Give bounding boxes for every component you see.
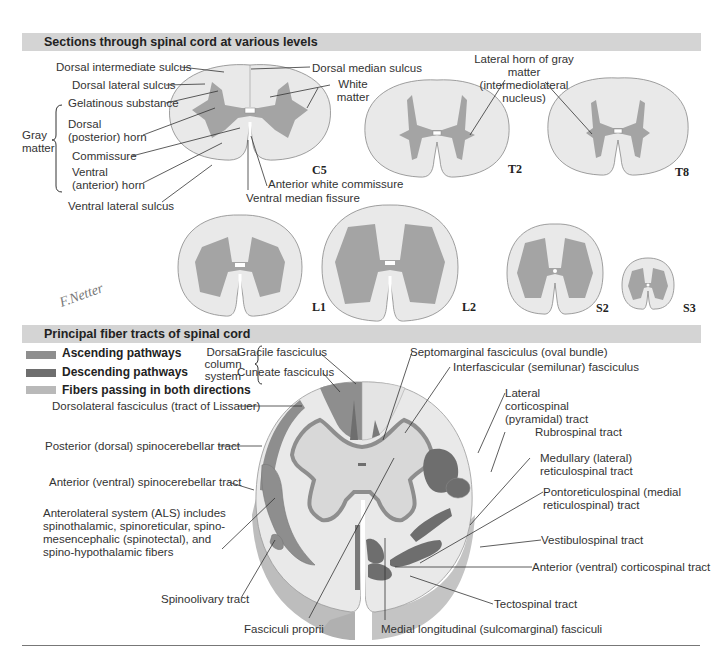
label-dorsal-intermediate-sulcus: Dorsal intermediate sulcus	[56, 61, 192, 74]
label-anterior-spinocerebellar: Anterior (ventral) spinocerebellar tract	[49, 476, 241, 489]
label-lateral-horn: Lateral horn of gray matter (intermediol…	[468, 53, 580, 105]
legend-swatch-descending	[26, 369, 56, 377]
cord-section-l1	[178, 215, 302, 316]
label-dorsolateral-fasciculus: Dorsolateral fasciculus (tract of Lissau…	[52, 400, 260, 413]
label-gracile-fasciculus: Gracile fasciculus	[237, 346, 327, 359]
legend-descending: Descending pathways	[62, 365, 188, 379]
label-interfascicular-fasciculus: Interfascicular (semilunar) fasciculus	[453, 361, 639, 374]
level-t8: T8	[675, 165, 689, 180]
label-cuneate-fasciculus: Cuneate fasciculus	[237, 366, 334, 379]
label-vestibulospinal-tract: Vestibulospinal tract	[541, 534, 643, 547]
label-anterior-white-commissure: Anterior white commissure	[268, 178, 403, 191]
label-ventral-lateral-sulcus: Ventral lateral sulcus	[68, 200, 174, 213]
cord-section-c5	[169, 65, 330, 161]
netter-signature: F.Netter	[57, 280, 106, 310]
label-dorsal-lateral-sulcus: Dorsal lateral sulcus	[72, 79, 176, 92]
level-t2: T2	[508, 162, 522, 177]
cord-section-s2	[507, 224, 603, 314]
label-ventral-horn: Ventral (anterior) horn	[72, 166, 148, 192]
label-commissure: Commissure	[72, 150, 137, 163]
label-anterolateral-system: Anterolateral system (ALS) includes spin…	[43, 507, 228, 559]
label-rubrospinal-tract: Rubrospinal tract	[535, 426, 622, 439]
label-tectospinal-tract: Tectospinal tract	[494, 598, 577, 611]
label-lateral-corticospinal: Lateral corticospinal (pyramidal) tract	[505, 387, 605, 426]
level-s2: S2	[596, 301, 609, 316]
legend-both-directions: Fibers passing in both directions	[62, 383, 251, 397]
footer-rule	[22, 645, 700, 646]
label-white-matter: White matter	[333, 78, 373, 104]
label-gray-matter: Gray matter	[22, 129, 56, 155]
level-s3: S3	[683, 301, 696, 316]
label-spinoolivary-tract: Spinoolivary tract	[161, 593, 249, 606]
label-ventral-median-fissure: Ventral median fissure	[246, 192, 360, 205]
label-medullary-reticulospinal: Medullary (lateral) reticulospinal tract	[540, 452, 640, 478]
label-dorsal-horn: Dorsal (posterior) horn	[68, 118, 148, 144]
label-anterior-corticospinal: Anterior (ventral) corticospinal tract	[532, 561, 710, 574]
level-c5: C5	[312, 163, 327, 178]
label-septomarginal-fasciculus: Septomarginal fasciculus (oval bundle)	[410, 346, 608, 359]
cord-section-s3	[622, 258, 674, 309]
label-pontoreticulospinal: Pontoreticulospinal (medial reticulospin…	[543, 486, 683, 512]
fiber-tract-cord	[252, 382, 475, 640]
level-l2: L2	[462, 300, 476, 315]
legend-swatch-ascending	[26, 351, 56, 359]
label-gelatinous-substance: Gelatinous substance	[68, 97, 179, 110]
label-fasciculi-proprii: Fasciculi proprii	[244, 623, 324, 636]
label-dorsal-median-sulcus: Dorsal median sulcus	[312, 62, 422, 75]
level-l1: L1	[312, 300, 326, 315]
legend-swatch-both	[26, 386, 56, 394]
label-posterior-spinocerebellar: Posterior (dorsal) spinocerebellar tract	[45, 440, 240, 453]
label-medial-longitudinal-fasciculi: Medial longitudinal (sulcomarginal) fasc…	[381, 623, 602, 636]
cord-section-l2	[322, 205, 458, 321]
legend-ascending: Ascending pathways	[62, 346, 181, 360]
